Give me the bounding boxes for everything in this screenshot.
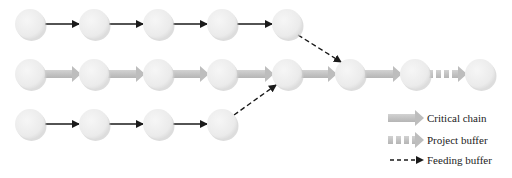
activity-node [15,59,47,91]
activity-node [143,109,175,141]
critical-chain-diagram: Critical chain Project buffer Feeding bu… [0,0,512,178]
activity-node [143,9,175,41]
activity-node [335,59,367,91]
legend-symbols [388,110,424,160]
critical-chain-arrow [235,66,274,82]
critical-chain-arrow [107,66,145,82]
activity-node [143,59,175,91]
legend-project-buffer-icon [388,132,424,148]
activity-node [207,59,239,91]
project-buffer-arrow [428,66,467,82]
activity-node [272,59,304,91]
legend-project-buffer-label: Project buffer [427,134,488,146]
feeding-buffer-arrow-top [298,35,341,62]
legend-critical-chain-label: Critical chain [427,112,487,124]
legend-feeding-buffer-label: Feeding buffer [427,154,492,166]
critical-chain-arrow [363,66,402,82]
activity-node [79,59,111,91]
feeding-buffer-arrow-bottom [234,85,276,115]
legend-critical-chain-icon [388,110,424,126]
activity-node [79,9,111,41]
activity-node [15,9,47,41]
activity-node [207,109,239,141]
activity-node [15,109,47,141]
critical-chain-arrow [300,66,337,82]
activity-node [465,59,497,91]
critical-chain-arrow [43,66,81,82]
activity-node [272,9,304,41]
activity-node [207,9,239,41]
activity-node [79,109,111,141]
diagram-canvas [0,0,512,178]
critical-chain-arrow [171,66,209,82]
activity-node [400,59,432,91]
